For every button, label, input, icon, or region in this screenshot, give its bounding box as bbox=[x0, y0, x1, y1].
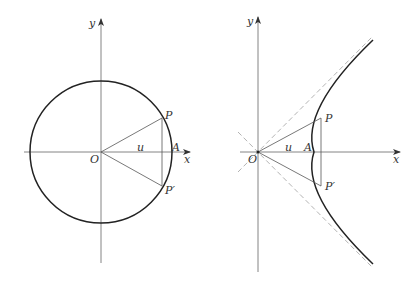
label-A: A bbox=[171, 141, 180, 154]
label-P: P bbox=[324, 112, 333, 125]
label-u: u bbox=[285, 141, 292, 154]
label-u: u bbox=[137, 141, 144, 154]
label-A: A bbox=[303, 141, 312, 154]
label-P-prime: P′ bbox=[164, 184, 175, 197]
label-P: P bbox=[164, 109, 173, 122]
label-x: x bbox=[393, 153, 400, 166]
segment-OP-prime bbox=[101, 152, 162, 186]
label-y: y bbox=[246, 15, 254, 28]
figure: y x O P P′ A u y x O P P′ A u bbox=[0, 0, 420, 289]
circle-diagram: y x O P P′ A u bbox=[24, 17, 191, 263]
segment-OP bbox=[101, 118, 162, 152]
hyperbola-diagram: y x O P P′ A u bbox=[238, 15, 400, 272]
label-y: y bbox=[88, 17, 96, 30]
label-x: x bbox=[184, 153, 191, 166]
label-origin: O bbox=[248, 153, 257, 166]
label-P-prime: P′ bbox=[324, 180, 335, 193]
label-origin: O bbox=[90, 153, 99, 166]
